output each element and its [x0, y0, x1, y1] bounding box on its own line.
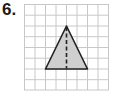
grid-figure — [0, 0, 118, 97]
